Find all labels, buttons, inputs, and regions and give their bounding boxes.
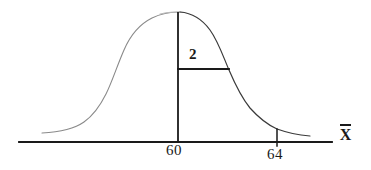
- xbar-glyph: X: [339, 127, 352, 143]
- distribution-drawing: [0, 0, 371, 170]
- x-tick-label-64: 64: [267, 147, 283, 162]
- sigma-segment-label: 2: [189, 47, 197, 62]
- normal-curve-left-tail: [42, 12, 180, 133]
- x-tick-label-60: 60: [166, 143, 182, 158]
- axis-variable-label-xbar: X: [339, 124, 352, 143]
- normal-distribution-figure: 60 64 2 X: [0, 0, 371, 170]
- normal-curve-right-flank: [180, 12, 310, 136]
